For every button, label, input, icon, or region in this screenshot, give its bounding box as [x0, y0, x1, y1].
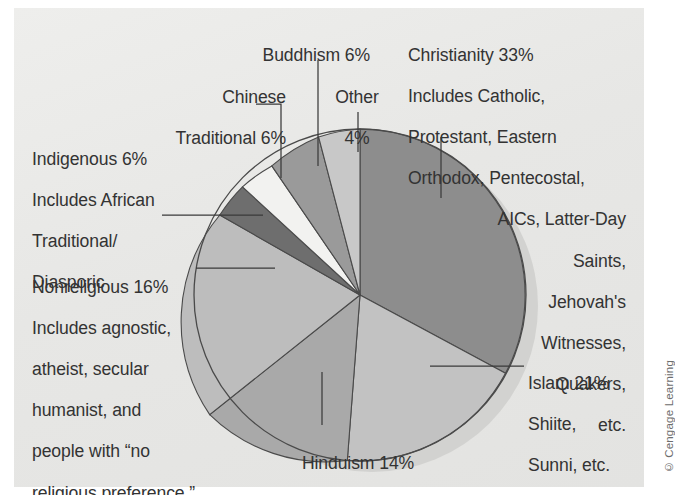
- slice-label-other-line1: Other: [326, 87, 388, 108]
- slice-label-other: Other 4%: [326, 66, 388, 169]
- slice-label-christianity-line6: Saints,: [408, 251, 626, 272]
- slice-label-christianity-line3: Protestant, Eastern: [408, 127, 626, 148]
- slice-label-christianity-line1: Christianity 33%: [408, 45, 626, 66]
- slice-label-christianity-line7: Jehovah's: [408, 292, 626, 313]
- slice-label-christianity-line2: Includes Catholic,: [408, 86, 626, 107]
- slice-label-nonreligious: Nonreligious 16% Includes agnostic, athe…: [32, 256, 262, 495]
- slice-label-indigenous-line1: Indigenous 6%: [32, 149, 247, 170]
- slice-label-islam-line2: Shiite,: [528, 414, 668, 435]
- slice-label-nonreligious-line3: atheist, secular: [32, 359, 262, 380]
- slice-label-nonreligious-line5: people with “no: [32, 441, 262, 462]
- slice-label-hinduism: Hinduism 14%: [258, 432, 458, 494]
- slice-label-islam: Islam 21% Shiite, Sunni, etc.: [528, 352, 668, 495]
- slice-label-christianity-line8: Witnesses,: [408, 333, 626, 354]
- slice-label-christianity-line4: Orthodox, Pentecostal,: [408, 168, 626, 189]
- slice-label-christianity-line5: AICs, Latter-Day: [408, 209, 626, 230]
- slice-label-chinese-traditional-line1: Chinese: [96, 87, 286, 108]
- slice-label-islam-line3: Sunni, etc.: [528, 455, 668, 476]
- slice-label-indigenous-line3: Traditional/: [32, 231, 247, 252]
- slice-label-indigenous-line2: Includes African: [32, 190, 247, 211]
- slice-label-nonreligious-line2: Includes agnostic,: [32, 318, 262, 339]
- slice-label-nonreligious-line1: Nonreligious 16%: [32, 277, 262, 298]
- slice-label-islam-line1: Islam 21%: [528, 373, 668, 394]
- copyright-credit: © Cengage Learning: [663, 360, 679, 473]
- slice-label-nonreligious-line6: religious preference.”: [32, 483, 262, 495]
- slice-label-buddhism-text: Buddhism 6%: [190, 45, 370, 66]
- slice-label-nonreligious-line4: humanist, and: [32, 400, 262, 421]
- slice-label-hinduism-text: Hinduism 14%: [258, 453, 458, 474]
- slice-label-other-line2: 4%: [326, 128, 388, 149]
